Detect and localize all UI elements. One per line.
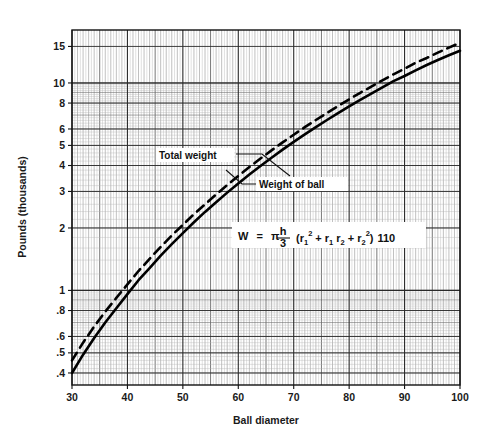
x-tick-50: 50: [177, 391, 189, 403]
formula-w: W: [238, 230, 249, 242]
y-tick-p5: .5: [56, 346, 65, 358]
formula-annotation: W = π h 3 (r12+ r1r2+ r22)110: [232, 222, 426, 249]
x-tick-100: 100: [451, 391, 469, 403]
y-tick-2: 2: [59, 222, 65, 234]
formula-denominator: 3: [280, 237, 286, 249]
x-tick-30: 30: [66, 391, 78, 403]
formula-sub3: 2: [341, 238, 345, 247]
x-tick-80: 80: [343, 391, 355, 403]
semilog-chart: 30405060708090100.4.5.6.812345681015Ball…: [0, 0, 493, 441]
y-tick-3: 3: [59, 185, 65, 197]
x-tick-90: 90: [399, 391, 411, 403]
formula-equals: =: [256, 230, 262, 242]
chart-figure: 30405060708090100.4.5.6.812345681015Ball…: [0, 0, 493, 441]
formula-expression: W = π: [238, 230, 280, 242]
formula-sub1: 1: [304, 238, 308, 247]
formula-plus1: + r: [315, 232, 329, 244]
formula-numerator: h: [280, 225, 287, 237]
y-axis-title: Pounds (thousands): [16, 156, 28, 258]
y-tick-10: 10: [53, 77, 65, 89]
y-tick-p6: .6: [56, 330, 65, 342]
formula-sup1: 2: [308, 229, 312, 238]
y-tick-1: 1: [59, 284, 65, 296]
formula-factor: 110: [377, 232, 395, 244]
formula-close: ): [370, 232, 374, 244]
annotation-total-weight-label: Total weight: [159, 150, 217, 161]
y-tick-8: 8: [59, 97, 65, 109]
x-tick-60: 60: [232, 391, 244, 403]
y-tick-p8: .8: [56, 304, 65, 316]
y-tick-5: 5: [59, 139, 65, 151]
y-tick-4: 4: [59, 159, 65, 171]
x-tick-40: 40: [122, 391, 134, 403]
formula-pi: π: [271, 230, 280, 242]
formula-sub4: 2: [361, 238, 365, 247]
formula-plus2: + r: [348, 232, 362, 244]
x-axis-title: Ball diameter: [233, 414, 299, 426]
annotation-weight-of-ball-label: Weight of ball: [259, 179, 325, 190]
y-tick-6: 6: [59, 123, 65, 135]
formula-sub2: 1: [329, 238, 333, 247]
y-tick-p4: .4: [56, 367, 65, 379]
x-tick-70: 70: [288, 391, 300, 403]
y-tick-15: 15: [53, 40, 65, 52]
